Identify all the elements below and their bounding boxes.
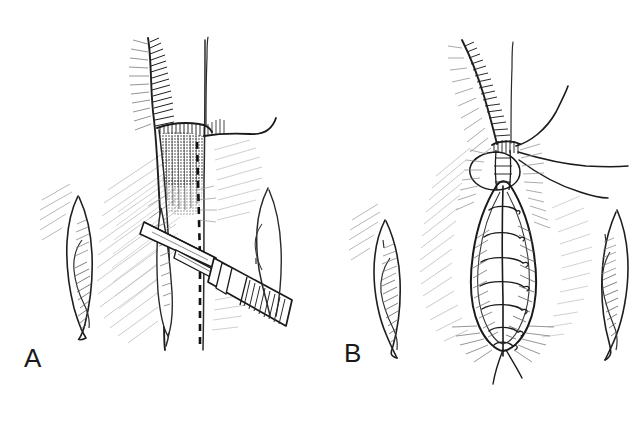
suture-midline bbox=[502, 186, 503, 356]
panel-label-a: A bbox=[24, 345, 42, 371]
figure-container: A B bbox=[0, 0, 644, 429]
surgical-illustration bbox=[0, 0, 644, 429]
panel-label-b: B bbox=[344, 340, 362, 366]
figure-background bbox=[0, 0, 644, 429]
